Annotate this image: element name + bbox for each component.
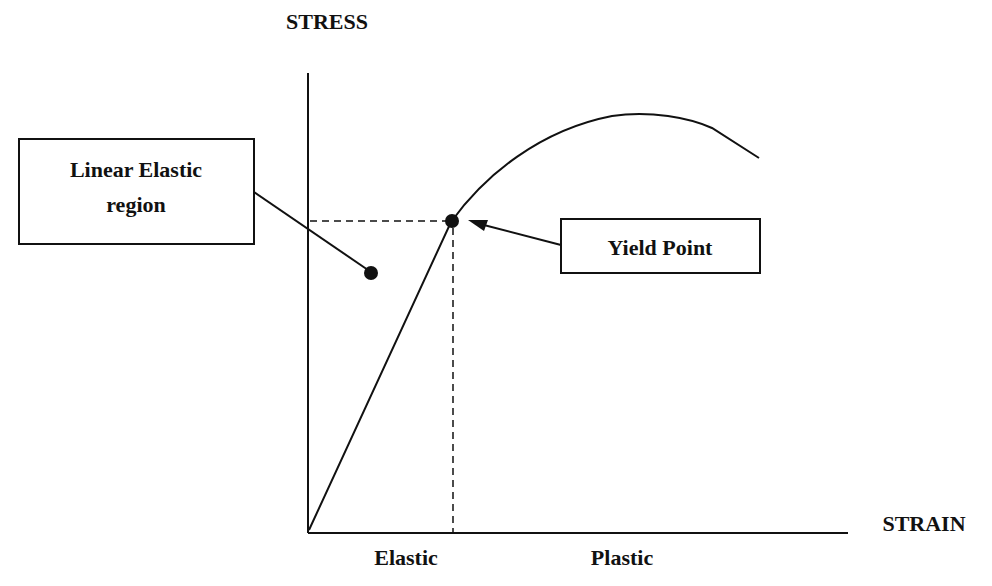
elastic-region-label: Elastic (374, 545, 438, 570)
stress-strain-curve (309, 114, 759, 530)
yield-point-arrow-line (480, 224, 561, 245)
y-axis-label: STRESS (286, 9, 368, 34)
yield-point-marker (445, 214, 459, 228)
linear-elastic-label-line2: region (106, 192, 165, 217)
linear-elastic-marker (364, 266, 378, 280)
stress-strain-diagram: STRESS STRAIN Linear Elastic region Yiel… (0, 0, 992, 586)
plastic-region-label: Plastic (591, 545, 654, 570)
arrowhead-icon (468, 220, 488, 231)
linear-elastic-leader-line (254, 192, 368, 270)
x-axis-label: STRAIN (882, 511, 965, 536)
linear-elastic-label-line1: Linear Elastic (70, 157, 202, 182)
yield-point-label: Yield Point (608, 235, 714, 260)
